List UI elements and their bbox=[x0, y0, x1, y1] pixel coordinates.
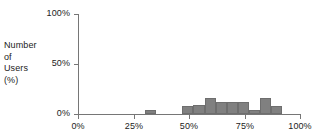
x-tick-mark-1 bbox=[134, 115, 135, 119]
histogram-chart: Number of Users (%) 0%50%100%0%25%50%75%… bbox=[0, 0, 319, 138]
y-tick-mark-2 bbox=[74, 14, 78, 15]
y-tick-label-0: 0% bbox=[36, 108, 70, 118]
bar-9 bbox=[271, 106, 282, 114]
y-axis-label-line-1: Number bbox=[4, 40, 64, 52]
bar-3 bbox=[205, 98, 216, 114]
bar-8 bbox=[260, 98, 271, 114]
y-tick-label-2: 100% bbox=[36, 8, 70, 18]
x-tick-mark-3 bbox=[245, 115, 246, 119]
bar-1 bbox=[182, 106, 193, 114]
x-tick-mark-2 bbox=[189, 115, 190, 119]
bar-0 bbox=[145, 110, 156, 114]
bar-2 bbox=[193, 105, 204, 114]
bar-6 bbox=[238, 102, 249, 114]
x-tick-label-4: 100% bbox=[283, 121, 317, 131]
y-axis-line bbox=[78, 14, 79, 115]
x-tick-mark-0 bbox=[78, 115, 79, 119]
bar-5 bbox=[227, 102, 238, 114]
y-axis-label-line-4: (%) bbox=[4, 75, 64, 87]
y-tick-mark-1 bbox=[74, 64, 78, 65]
bar-4 bbox=[216, 102, 227, 114]
x-tick-label-0: 0% bbox=[61, 121, 95, 131]
bar-7 bbox=[249, 110, 260, 114]
x-tick-mark-4 bbox=[300, 115, 301, 119]
x-tick-label-3: 75% bbox=[228, 121, 262, 131]
y-tick-label-1: 50% bbox=[36, 58, 70, 68]
x-tick-label-2: 50% bbox=[172, 121, 206, 131]
x-tick-label-1: 25% bbox=[117, 121, 151, 131]
